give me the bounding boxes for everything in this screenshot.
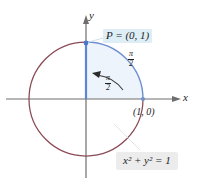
x-axis-arrowhead xyxy=(172,96,181,102)
quadrant-fill xyxy=(86,42,143,99)
point-marker-one-zero xyxy=(141,97,145,101)
leader-line-p xyxy=(88,38,103,43)
point-marker-p xyxy=(84,41,89,46)
arc-length-numerator: π xyxy=(128,50,134,58)
arc-length-denominator: 2 xyxy=(128,60,134,68)
point-one-zero-label: (1, 0) xyxy=(133,107,155,117)
angle-numerator: π xyxy=(105,74,111,82)
x-axis-label: x xyxy=(183,92,188,103)
angle-denominator: 2 xyxy=(105,84,111,92)
arc-length-fraction: π 2 xyxy=(128,50,134,68)
circle-equation-label: x² + y² = 1 xyxy=(116,152,178,170)
angle-fraction: π 2 xyxy=(105,74,111,92)
y-axis-label: y xyxy=(89,10,94,21)
unit-circle-figure: y x P = (0, 1) (1, 0) x² + y² = 1 π 2 π … xyxy=(0,0,199,186)
point-p-label: P = (0, 1) xyxy=(103,29,152,43)
